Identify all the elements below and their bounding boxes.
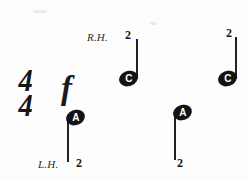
note-3-fingering: 2 xyxy=(177,157,183,169)
time-signature: 4 4 xyxy=(18,68,33,119)
note-1-stem xyxy=(67,118,69,162)
note-2-fingering: 2 xyxy=(125,29,131,41)
hand-label-right: R.H. xyxy=(87,31,108,43)
note-4-fingering: 2 xyxy=(226,27,232,39)
note-1-fingering: 2 xyxy=(76,157,82,169)
scan-speck xyxy=(150,22,157,25)
note-1-letter: A xyxy=(72,113,79,123)
dynamic-forte: f xyxy=(61,72,72,105)
time-signature-denominator: 4 xyxy=(19,93,33,118)
music-notation-canvas: 4 4 f R.H. L.H. A 2 C 2 A 2 C 2 xyxy=(0,0,249,181)
note-4-letter: C xyxy=(224,74,231,84)
note-3-stem xyxy=(174,113,176,160)
scan-speck xyxy=(33,10,47,13)
note-3-letter: A xyxy=(179,108,186,118)
hand-label-left: L.H. xyxy=(38,158,58,170)
note-2-letter: C xyxy=(125,74,132,84)
